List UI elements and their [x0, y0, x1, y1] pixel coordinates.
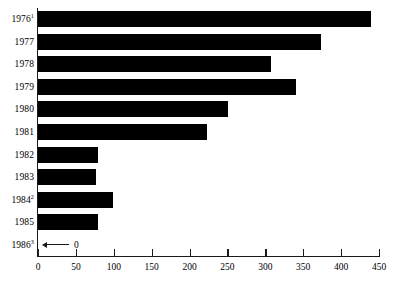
bar — [38, 214, 98, 230]
bar-row — [38, 11, 379, 27]
bar-row — [38, 214, 379, 230]
bar-row — [38, 237, 379, 253]
category-label-1979: 1979 — [0, 82, 34, 92]
category-label-1978: 1978 — [0, 59, 34, 69]
bar — [38, 79, 296, 95]
left-arrow-icon — [43, 244, 69, 245]
x-axis-tick-label: 100 — [94, 262, 134, 273]
x-axis-tick — [114, 249, 115, 256]
bar — [38, 147, 98, 163]
bar-row — [38, 101, 379, 117]
x-axis-tick — [152, 249, 153, 256]
x-axis-tick-label: 250 — [207, 262, 247, 273]
category-label-1986: 19863 — [0, 240, 34, 250]
category-label-1983: 1983 — [0, 172, 34, 182]
bar-row — [38, 169, 379, 185]
bar-chart: 1976119771978197919801981198219831984219… — [0, 0, 399, 286]
bar — [38, 124, 207, 140]
bar-row — [38, 124, 379, 140]
x-axis-tick-label: 200 — [170, 262, 210, 273]
x-axis-tick — [303, 249, 304, 256]
footnote-marker: 1 — [31, 12, 34, 19]
x-axis-tick — [227, 249, 228, 256]
x-axis-tick — [379, 249, 380, 256]
category-label-1984: 19842 — [0, 195, 34, 205]
bar-row — [38, 34, 379, 50]
bar — [38, 11, 371, 27]
footnote-marker: 3 — [31, 238, 34, 245]
x-axis-tick — [76, 249, 77, 256]
x-axis-tick — [190, 249, 191, 256]
bar-row — [38, 56, 379, 72]
footnote-marker: 2 — [31, 192, 34, 199]
x-axis-tick-label: 450 — [359, 262, 399, 273]
x-axis-tick — [265, 249, 266, 256]
x-axis-line — [37, 256, 380, 257]
x-axis-tick — [341, 249, 342, 256]
x-axis-tick — [38, 249, 39, 256]
category-axis-labels: 1976119771978197919801981198219831984219… — [0, 8, 34, 256]
bar — [38, 169, 96, 185]
x-axis-tick-label: 0 — [18, 262, 58, 273]
bar-row — [38, 79, 379, 95]
bar — [38, 34, 321, 50]
category-label-1982: 1982 — [0, 150, 34, 160]
plot-area: 0 — [38, 8, 379, 256]
x-axis-tick-label: 50 — [56, 262, 96, 273]
category-label-1976: 19761 — [0, 14, 34, 24]
x-axis-tick-label: 150 — [132, 262, 172, 273]
category-label-1977: 1977 — [0, 37, 34, 47]
bar-row — [38, 192, 379, 208]
category-label-1980: 1980 — [0, 104, 34, 114]
bar — [38, 56, 271, 72]
bar — [38, 192, 113, 208]
category-label-1981: 1981 — [0, 127, 34, 137]
x-axis-tick-label: 300 — [245, 262, 285, 273]
zero-value-annotation: 0 — [38, 238, 79, 252]
x-axis-tick-label: 350 — [283, 262, 323, 273]
bar — [38, 101, 228, 117]
x-axis-tick-label: 400 — [321, 262, 361, 273]
bar-row — [38, 147, 379, 163]
category-label-1985: 1985 — [0, 217, 34, 227]
